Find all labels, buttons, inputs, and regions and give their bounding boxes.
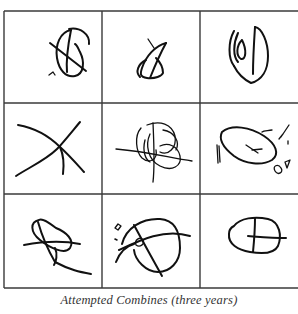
drawing-cell-3-2 — [115, 219, 190, 276]
drawing-cell-2-3 — [217, 125, 290, 173]
figure-caption: Attempted Combines (three years) — [0, 293, 298, 308]
drawing-grid — [0, 0, 298, 314]
drawing-cell-1-2 — [138, 39, 166, 78]
drawing-cell-1-1 — [49, 29, 89, 77]
figure: Attempted Combines (three years) — [0, 0, 298, 314]
drawing-cell-3-1 — [24, 219, 91, 274]
drawing-cell-1-3 — [230, 27, 269, 83]
drawing-cell-2-2 — [116, 123, 192, 182]
drawing-cell-2-1 — [16, 122, 84, 176]
drawing-cell-3-3 — [229, 218, 286, 253]
